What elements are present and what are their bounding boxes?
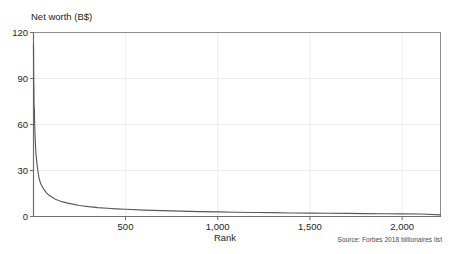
source-note: Source: Forbes 2018 billionaires list (338, 235, 442, 244)
y-tick-label: 0 (2, 212, 28, 222)
x-tick-label: 2,000 (372, 222, 432, 232)
x-tick-label: 1,500 (280, 222, 340, 232)
x-tick-label: 500 (96, 222, 156, 232)
y-tick-label: 60 (2, 120, 28, 130)
y-tick-label: 30 (2, 166, 28, 176)
plot-area (0, 0, 450, 254)
x-tick-label: 1,000 (188, 222, 248, 232)
horizontal-gridlines (34, 33, 441, 171)
data-series-line (34, 45, 441, 215)
chart-figure: Net worth (B$) 0306090120 5001,0001,5002… (0, 0, 450, 254)
y-tick-label: 90 (2, 74, 28, 84)
y-tick-label: 120 (2, 28, 28, 38)
